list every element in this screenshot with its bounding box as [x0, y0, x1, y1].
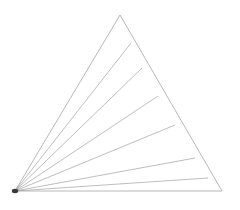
apex-convergence-blob	[12, 189, 18, 193]
figure-canvas	[0, 0, 240, 210]
triangle-fan-diagram	[0, 0, 240, 210]
